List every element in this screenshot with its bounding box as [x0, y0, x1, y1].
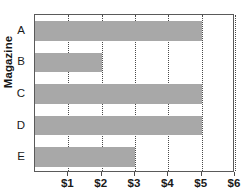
- x-tick-label-3: $3: [128, 176, 141, 190]
- chart-title: [0, 0, 244, 3]
- gridline-x-6: [235, 15, 236, 171]
- bar-row: [35, 53, 233, 73]
- x-axis-tick-labels: $1$2$3$4$5$6: [34, 176, 234, 190]
- y-tick-label-a: A: [17, 24, 25, 36]
- bar-a[interactable]: [35, 21, 202, 41]
- bar-row: [35, 84, 233, 104]
- bar-c[interactable]: [35, 84, 202, 104]
- y-tick-label-b: B: [17, 55, 25, 67]
- bar-e[interactable]: [35, 147, 135, 167]
- x-tick-label-2: $2: [94, 176, 107, 190]
- bar-b[interactable]: [35, 53, 102, 73]
- y-tick-label-e: E: [17, 150, 25, 162]
- bars-layer: [35, 15, 233, 171]
- bar-chart-figure: Magazine ABCDE $1$2$3$4$5$6: [0, 0, 244, 190]
- plot-area: [34, 14, 234, 172]
- x-tick-label-5: $5: [194, 176, 207, 190]
- bar-row: [35, 147, 233, 167]
- bar-d[interactable]: [35, 116, 202, 136]
- bar-row: [35, 116, 233, 136]
- y-tick-label-c: C: [17, 87, 25, 99]
- bar-row: [35, 21, 233, 41]
- y-axis-tick-labels: ABCDE: [0, 14, 30, 172]
- y-tick-label-d: D: [17, 119, 25, 131]
- x-tick-label-1: $1: [61, 176, 74, 190]
- x-tick-label-4: $4: [161, 176, 174, 190]
- x-tick-label-6: $6: [228, 176, 241, 190]
